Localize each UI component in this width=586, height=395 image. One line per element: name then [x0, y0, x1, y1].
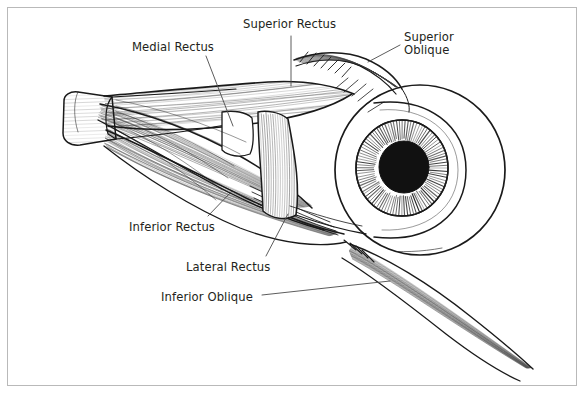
lateral-rectus-band — [258, 111, 298, 218]
leader-inferior-oblique — [262, 281, 390, 295]
inferior-oblique-band — [342, 240, 533, 381]
leader-inferior-rectus — [208, 191, 232, 216]
pupil — [379, 141, 429, 193]
label-medial-rectus: Medial Rectus — [132, 41, 214, 54]
anatomical-illustration — [0, 0, 586, 395]
label-inferior-rectus: Inferior Rectus — [129, 221, 215, 234]
figure-root: Superior Rectus Superior Oblique Medial … — [0, 0, 586, 395]
leader-lateral-rectus — [266, 214, 288, 256]
label-lateral-rectus: Lateral Rectus — [186, 261, 270, 274]
label-superior-rectus: Superior Rectus — [243, 18, 336, 31]
label-inferior-oblique: Inferior Oblique — [161, 291, 253, 304]
leader-superior-oblique — [368, 45, 400, 62]
label-superior-oblique: Superior Oblique — [404, 31, 454, 58]
